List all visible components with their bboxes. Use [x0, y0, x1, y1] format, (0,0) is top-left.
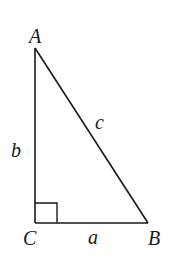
side-label-c: c	[95, 111, 104, 133]
side-c-line	[35, 48, 148, 223]
side-label-a: a	[88, 226, 98, 248]
right-triangle-diagram: A C B b c a	[0, 0, 176, 266]
side-label-b: b	[11, 139, 21, 161]
vertex-label-c: C	[23, 227, 37, 249]
vertex-label-a: A	[27, 25, 42, 47]
right-angle-marker	[35, 203, 57, 223]
vertex-label-b: B	[148, 227, 160, 249]
